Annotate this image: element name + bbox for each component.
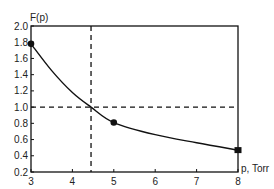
plot-border bbox=[31, 26, 238, 172]
data-point-circle bbox=[111, 119, 118, 126]
data-point-square bbox=[235, 147, 242, 153]
data-point-circle bbox=[28, 41, 35, 48]
y-tick-label: 0.6 bbox=[14, 134, 28, 145]
chart: 0.20.40.60.81.01.21.41.61.82.0 345678 F(… bbox=[0, 0, 274, 189]
x-tick-label: 8 bbox=[235, 176, 241, 187]
y-tick-label: 0.2 bbox=[14, 167, 28, 178]
x-tick-label: 3 bbox=[28, 176, 34, 187]
data-curve bbox=[31, 44, 238, 150]
x-tick-label: 4 bbox=[70, 176, 76, 187]
y-tick-label: 1.0 bbox=[14, 102, 28, 113]
y-tick-label: 1.8 bbox=[14, 37, 28, 48]
y-tick-label: 2.0 bbox=[14, 21, 28, 32]
x-tick-label: 5 bbox=[111, 176, 117, 187]
y-tick-label: 0.4 bbox=[14, 150, 28, 161]
x-tick-label: 6 bbox=[152, 176, 158, 187]
y-tick-label: 1.4 bbox=[14, 69, 28, 80]
y-tick-label: 0.8 bbox=[14, 118, 28, 129]
x-tick-label: 7 bbox=[194, 176, 200, 187]
y-tick-label: 1.2 bbox=[14, 85, 28, 96]
data-markers bbox=[28, 41, 242, 154]
x-axis-label: p, Torr bbox=[241, 163, 270, 174]
plot-frame bbox=[31, 26, 238, 172]
y-tick-label: 1.6 bbox=[14, 53, 28, 64]
y-axis-label: F(p) bbox=[30, 12, 48, 23]
reference-lines bbox=[31, 26, 238, 172]
